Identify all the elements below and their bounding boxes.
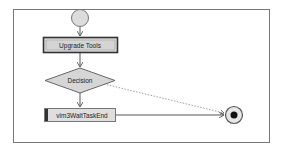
action-wait-task[interactable]: vim3WaitTaskEnd xyxy=(45,109,116,122)
action-upgrade-tools-label: Upgrade Tools xyxy=(59,42,102,50)
action-upgrade-tools[interactable]: Upgrade Tools xyxy=(44,38,118,53)
final-node[interactable] xyxy=(226,107,243,124)
action-wait-task-label: vim3WaitTaskEnd xyxy=(56,112,108,119)
decision-label: Decision xyxy=(68,77,93,84)
activity-diagram: Upgrade Tools Decision vim3WaitTaskEnd xyxy=(0,0,281,148)
initial-node[interactable] xyxy=(72,10,89,27)
